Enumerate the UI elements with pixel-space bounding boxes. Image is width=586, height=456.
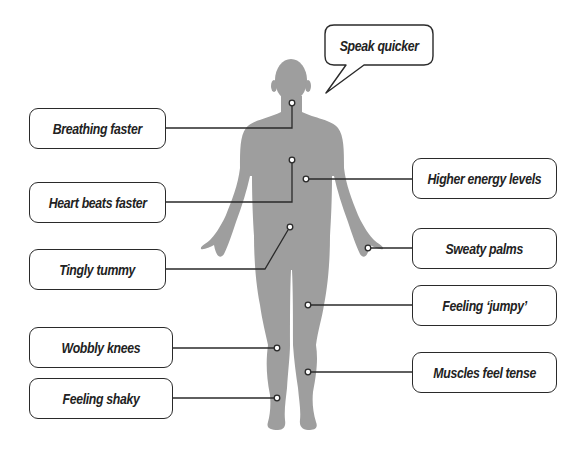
label-higher-energy-levels: Higher energy levels xyxy=(412,158,557,199)
label-text: Higher energy levels xyxy=(428,170,542,187)
label-text: Feeling shaky xyxy=(62,390,139,407)
speak-quicker-label: Speak quicker xyxy=(326,26,432,64)
marker-knee xyxy=(274,345,280,351)
marker-chest xyxy=(289,157,295,163)
marker-throat xyxy=(289,100,295,106)
marker-calf xyxy=(305,369,311,375)
marker-palm xyxy=(365,245,371,251)
marker-shin xyxy=(274,395,280,401)
label-text: Sweaty palms xyxy=(446,240,523,257)
label-text: Muscles feel tense xyxy=(433,364,536,381)
label-tingly-tummy: Tingly tummy xyxy=(29,249,166,290)
marker-tummy xyxy=(287,224,293,230)
label-feeling-jumpy: Feeling ‘jumpy’ xyxy=(412,285,557,326)
label-text: Breathing faster xyxy=(53,120,142,137)
label-feeling-shaky: Feeling shaky xyxy=(29,378,173,419)
label-breathing-faster: Breathing faster xyxy=(29,108,166,149)
label-text: Heart beats faster xyxy=(48,194,146,211)
marker-thigh xyxy=(305,302,311,308)
label-sweaty-palms: Sweaty palms xyxy=(412,228,557,269)
label-muscles-feel-tense: Muscles feel tense xyxy=(412,352,557,393)
speak-quicker-text: Speak quicker xyxy=(339,37,418,54)
marker-energy xyxy=(303,176,309,182)
label-text: Tingly tummy xyxy=(60,261,136,278)
label-heart-beats-faster: Heart beats faster xyxy=(29,182,166,223)
label-text: Wobbly knees xyxy=(62,339,141,356)
label-wobbly-knees: Wobbly knees xyxy=(29,327,173,368)
label-text: Feeling ‘jumpy’ xyxy=(442,297,527,314)
